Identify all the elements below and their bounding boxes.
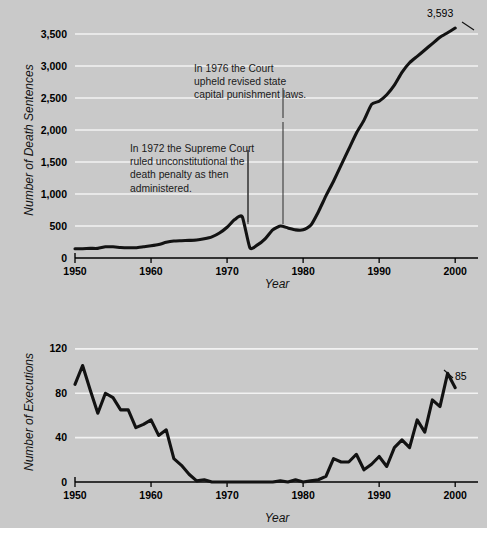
y-tick-label: 3,000 (41, 60, 67, 72)
x-tick-label: 1990 (367, 489, 391, 501)
annotation-line: administered. (130, 183, 192, 194)
annotation-1976: In 1976 the Courtupheld revised statecap… (194, 63, 306, 118)
death-sentences-endpoint-label: 3,593 (427, 7, 453, 19)
annotation-line: ruled unconstitutional the (130, 156, 245, 167)
annotation-line: In 1972 the Supreme Court (130, 143, 254, 154)
annotation-1972: In 1972 the Supreme Courtruled unconstit… (130, 143, 254, 222)
tick-labels-group: 04080120195019601970198019902000 (49, 342, 467, 501)
executions-endpoint-label: 85 (455, 370, 467, 382)
chart-panel-death-sentences: 05001,0001,5002,0002,5003,0003,500195019… (0, 0, 487, 292)
x-tick-label: 1960 (139, 265, 163, 277)
death-sentences-ylabel: Number of Death Sentences (22, 64, 36, 215)
executions-line (75, 366, 455, 482)
x-tick-label: 1990 (367, 265, 391, 277)
executions-xlabel: Year (265, 511, 291, 525)
x-tick-label: 1950 (63, 489, 87, 501)
annotation-line: upheld revised state (194, 76, 286, 87)
y-tick-label: 0 (61, 252, 67, 264)
executions-svg: 04080120195019601970198019902000 85 Year… (0, 292, 487, 528)
figure-root: 05001,0001,5002,0002,5003,0003,500195019… (0, 0, 504, 541)
y-tick-label: 1,000 (41, 188, 67, 200)
annotation-line: capital punishment laws. (194, 89, 306, 100)
death-sentences-line (75, 28, 455, 249)
annotation-line: In 1976 the Court (194, 63, 274, 74)
x-tick-label: 2000 (444, 265, 468, 277)
y-tick-label: 0 (61, 476, 67, 488)
y-tick-label: 3,500 (41, 28, 67, 40)
x-tick-label: 1950 (63, 265, 87, 277)
death-sentences-xlabel: Year (265, 277, 291, 291)
death-sentences-svg: 05001,0001,5002,0002,5003,0003,500195019… (0, 0, 487, 292)
x-tick-label: 1980 (291, 489, 315, 501)
axes-group (75, 253, 478, 263)
x-tick-label: 1960 (139, 489, 163, 501)
y-tick-label: 2,500 (41, 92, 67, 104)
endpoint-leader (462, 22, 474, 30)
y-tick-label: 120 (49, 342, 67, 354)
gridlines-group (75, 34, 478, 226)
y-tick-label: 500 (49, 220, 67, 232)
y-tick-label: 1,500 (41, 156, 67, 168)
x-tick-label: 1970 (215, 489, 239, 501)
y-tick-label: 2,000 (41, 124, 67, 136)
annotation-line: death penalty as then (130, 169, 229, 180)
x-tick-label: 1970 (215, 265, 239, 277)
x-tick-label: 2000 (444, 489, 468, 501)
y-tick-label: 40 (55, 431, 67, 443)
executions-ylabel: Number of Executions (22, 353, 36, 471)
chart-panel-executions: 04080120195019601970198019902000 85 Year… (0, 292, 487, 528)
y-tick-label: 80 (55, 387, 67, 399)
x-tick-label: 1980 (291, 265, 315, 277)
